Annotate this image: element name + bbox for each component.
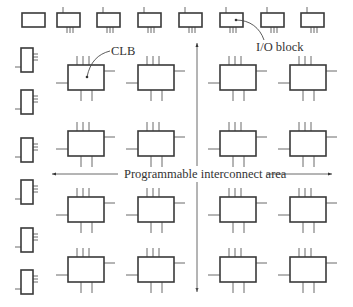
io-leader-dot: [235, 19, 238, 22]
clb-box: [138, 65, 174, 90]
clb-block: [126, 248, 185, 293]
io-block-top: [179, 7, 202, 33]
clb-block: [208, 56, 267, 101]
io-block-top: [57, 7, 80, 33]
clb-box: [138, 257, 174, 282]
clb-leader-dot: [86, 76, 89, 79]
io-block-box: [22, 13, 45, 27]
io-block-box: [57, 13, 80, 27]
io-block-box: [21, 90, 33, 114]
io-block-top: [261, 7, 284, 33]
clb-block: [126, 122, 185, 167]
clb-block: [208, 248, 267, 293]
io-block-box: [138, 13, 161, 27]
clb-block: [278, 248, 337, 293]
left-io-block-column: [15, 48, 38, 294]
io-block-box: [301, 13, 324, 27]
io-block-box: [21, 138, 33, 162]
clb-block: [208, 188, 267, 233]
io-block-label: I/O block: [256, 40, 304, 54]
clb-box: [138, 131, 174, 156]
io-block-left: [15, 180, 38, 204]
clb-box: [220, 131, 256, 156]
io-block-left: [15, 138, 38, 162]
clb-box: [220, 65, 256, 90]
clb-box: [68, 197, 104, 222]
clb-box: [68, 257, 104, 282]
io-block-box: [97, 13, 120, 27]
clb-box: [220, 257, 256, 282]
clb-block: [278, 188, 337, 233]
clb-block: [126, 56, 185, 101]
io-block-box: [21, 48, 33, 72]
io-block-box: [179, 13, 202, 27]
clb-block: [56, 122, 115, 167]
io-block-box: [21, 228, 33, 252]
io-block-box: [21, 180, 33, 204]
arrowhead-icon: [196, 43, 199, 47]
io-block-left: [15, 228, 38, 252]
clb-block: [56, 188, 115, 233]
clb-block: [278, 56, 337, 101]
io-block-top: [22, 13, 45, 27]
clb-box: [290, 257, 326, 282]
clb-block: [126, 188, 185, 233]
arrowhead-icon: [328, 173, 332, 176]
io-block-left: [15, 270, 38, 294]
clb-label: CLB: [111, 44, 135, 58]
clb-box: [290, 197, 326, 222]
clb-block: [56, 56, 115, 101]
clb-box: [138, 197, 174, 222]
clb-box: [290, 131, 326, 156]
arrowhead-icon: [52, 173, 56, 176]
io-block-left: [15, 90, 38, 114]
clb-block: [208, 122, 267, 167]
clb-box: [68, 131, 104, 156]
io-block-left: [15, 48, 38, 72]
io-block-box: [261, 13, 284, 27]
io-block-top: [97, 7, 120, 33]
io-block-top: [138, 7, 161, 33]
interconnect-label: Programmable interconnect area: [124, 167, 287, 181]
clb-block: [56, 248, 115, 293]
clb-block: [278, 122, 337, 167]
fpga-architecture-diagram: Programmable interconnect area CLB I/O b…: [0, 0, 353, 307]
clb-box: [220, 197, 256, 222]
io-block-top: [301, 7, 324, 33]
top-io-block-row: [22, 7, 324, 33]
io-block-box: [21, 270, 33, 294]
clb-box: [290, 65, 326, 90]
